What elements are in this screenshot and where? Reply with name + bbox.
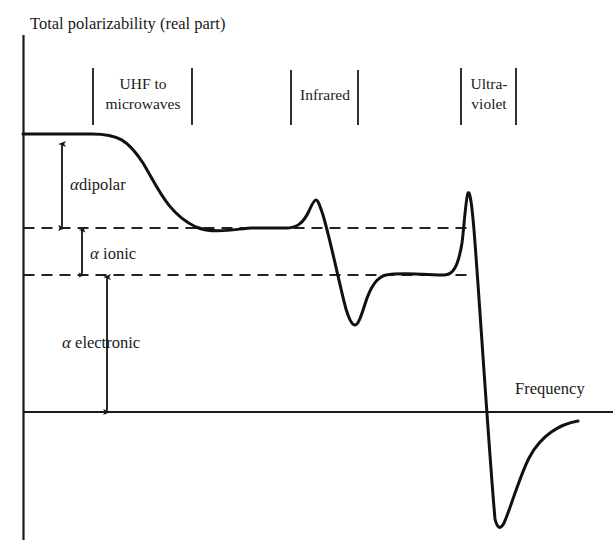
- band-label-infrared-line1: Infrared: [293, 85, 357, 105]
- alpha-name-electronic: electronic: [75, 333, 140, 352]
- alpha-symbol-ionic: α: [90, 244, 99, 263]
- band-label-uv-line2: violet: [464, 94, 514, 114]
- page-title: Total polarizability (real part): [30, 14, 225, 34]
- x-axis-label: Frequency: [515, 379, 585, 399]
- band-label-uhf: UHF to microwaves: [97, 74, 189, 114]
- band-label-uhf-line1: UHF to: [97, 74, 189, 94]
- band-label-infrared: Infrared: [293, 85, 357, 105]
- alpha-electronic-label: α electronic: [62, 333, 140, 353]
- alpha-name-ionic: ionic: [103, 244, 136, 263]
- band-label-uv-line1: Ultra-: [464, 74, 514, 94]
- band-label-ultraviolet: Ultra- violet: [464, 74, 514, 114]
- alpha-name-dipolar: dipolar: [79, 175, 126, 194]
- band-label-uhf-line2: microwaves: [97, 94, 189, 114]
- alpha-dipolar-label: αdipolar: [70, 175, 126, 195]
- figure-canvas: [0, 0, 613, 550]
- alpha-ionic-label: α ionic: [90, 244, 136, 264]
- alpha-symbol-dipolar: α: [70, 175, 79, 194]
- polarizability-figure: Total polarizability (real part) UHF to …: [0, 0, 613, 550]
- alpha-symbol-electronic: α: [62, 333, 71, 352]
